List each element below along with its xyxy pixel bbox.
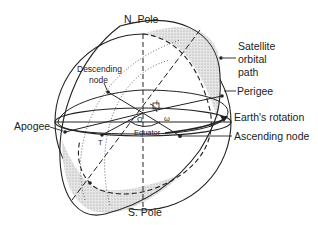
satellite-path-label-2: orbital bbox=[238, 53, 267, 65]
satellite-path-label-3: path bbox=[238, 66, 258, 78]
equator-label: Equator bbox=[134, 127, 160, 139]
inclination-label: i bbox=[156, 97, 158, 109]
T-label: T bbox=[98, 137, 103, 149]
orbit-band-lower bbox=[62, 140, 180, 213]
ascending-node-point bbox=[178, 134, 182, 138]
omega-lower-label: ω bbox=[164, 113, 170, 125]
south-pole-label: S. Pole bbox=[128, 206, 162, 218]
descending-node-point bbox=[106, 90, 110, 94]
orbit-point-lower bbox=[88, 181, 92, 185]
ascending-node-label: Ascending node bbox=[234, 130, 309, 142]
line-to-descending-node bbox=[108, 92, 143, 113]
satellite-point bbox=[219, 56, 223, 60]
perigee-point bbox=[220, 94, 224, 98]
descending-node-label-2: node bbox=[89, 74, 108, 86]
north-pole-label: N. Pole bbox=[124, 13, 158, 25]
perigee-label: Perigee bbox=[237, 85, 273, 97]
omega-upper-label: Ω bbox=[137, 114, 143, 126]
earths-rotation-label: Earth's rotation bbox=[234, 111, 304, 123]
earth-rotation-arrow bbox=[165, 118, 226, 133]
satellite-path-label-1: Satellite bbox=[238, 40, 275, 52]
apogee-label: Apogee bbox=[14, 120, 50, 132]
apogee-point bbox=[63, 130, 67, 134]
